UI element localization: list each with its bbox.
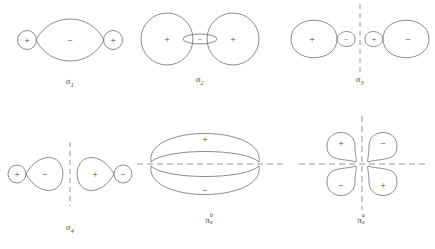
lobe-sign-inner-right: +	[92, 169, 98, 180]
lobe-sign-far-left: +	[309, 34, 315, 45]
lobe-sign-inner-left: −	[42, 169, 48, 180]
lobe-sign-left: +	[164, 34, 170, 45]
lobe-sign-right: +	[110, 35, 116, 46]
lobe-sign-bottom-left: −	[338, 180, 344, 191]
orbital-label-indices: ax	[362, 214, 367, 223]
orbital-diagram-sigma-1: + − + σ1	[0, 4, 140, 100]
orbital-diagram-sigma-2: + − + σ2	[125, 0, 275, 100]
orbital-label-superscript: a	[362, 211, 365, 218]
orbital-diagram-pi-x-b: + − πbx	[135, 118, 285, 238]
orbital-label-subscript: 2	[201, 79, 204, 86]
sigma-2-drawing: + − +	[125, 0, 275, 76]
orbital-label-sigma-2: σ2	[125, 74, 275, 86]
sigma-4-drawing: + − + −	[0, 138, 140, 210]
orbital-label-sigma-3: σ3	[285, 74, 435, 86]
pi-x-b-drawing: + −	[135, 118, 285, 210]
lobe-sign-top-right: −	[380, 138, 386, 149]
lobe-sign-far-right: −	[405, 34, 411, 45]
lobe-sign-bottom-right: +	[380, 180, 386, 191]
lobe-sign-far-right: −	[120, 169, 126, 180]
orbital-label-subscript: 3	[361, 79, 364, 86]
lobe-sign-inner-left: −	[344, 35, 349, 44]
orbital-label-subscript: 4	[71, 227, 74, 234]
molecular-orbital-figure: + − + σ1 + − + σ2	[0, 0, 435, 249]
orbital-diagram-sigma-4: + − + − σ4	[0, 138, 140, 238]
lobe-sign-bottom: −	[202, 185, 208, 196]
orbital-label-sigma-1: σ1	[0, 76, 140, 88]
lobe-sign-top-left: +	[338, 138, 344, 149]
lobe-sign-inner-right: +	[372, 35, 377, 44]
lobe-sign-right: +	[230, 34, 236, 45]
orbital-diagram-pi-x-a: + − − + πax	[297, 116, 427, 238]
orbital-label-sigma-4: σ4	[0, 222, 140, 234]
orbital-label-superscript: b	[210, 211, 213, 218]
orbital-diagram-sigma-3: + − + − σ3	[285, 2, 435, 100]
lobe-sign-center: −	[67, 35, 73, 46]
orbital-label-subscript: x	[362, 218, 365, 225]
sigma-3-drawing: + − + −	[285, 2, 435, 76]
pi-x-a-drawing: + − − +	[297, 116, 427, 212]
lobe-sign-left: +	[24, 35, 30, 46]
lobe-sign-center: −	[198, 35, 203, 44]
orbital-label-subscript: x	[210, 218, 213, 225]
lobe-sign-far-left: +	[14, 169, 20, 180]
orbital-label-pi-x-a: πax	[297, 214, 427, 225]
sigma-1-drawing: + − +	[0, 4, 140, 76]
orbital-label-pi-x-b: πbx	[135, 214, 285, 225]
lobe-sign-top: +	[202, 134, 208, 145]
orbital-label-indices: bx	[210, 214, 215, 223]
orbital-label-subscript: 1	[71, 81, 74, 88]
